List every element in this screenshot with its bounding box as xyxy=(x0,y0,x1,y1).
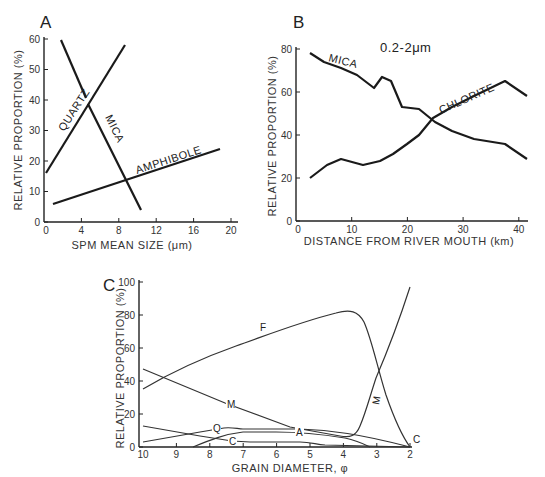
svg-text:8: 8 xyxy=(116,225,122,236)
panel-a-x-ticks: 0 4 8 12 16 20 xyxy=(43,218,237,236)
svg-text:50: 50 xyxy=(29,64,41,75)
svg-text:40: 40 xyxy=(281,130,293,141)
label-m2: M xyxy=(370,395,382,405)
figure: A 0 10 20 30 40 50 60 0 4 8 12 16 20 xyxy=(0,0,545,477)
panel-c: C 0 20 40 60 80 100 10 9 8 7 6 5 4 3 xyxy=(103,276,420,474)
panel-b: B 0.2-2μm 0 20 40 60 80 0 10 20 30 40 DI… xyxy=(266,13,528,247)
svg-text:20: 20 xyxy=(29,156,41,167)
panel-a-x-label: SPM MEAN SIZE (μm) xyxy=(71,239,192,251)
svg-text:60: 60 xyxy=(29,34,41,45)
label-m: M xyxy=(227,399,235,410)
svg-text:20: 20 xyxy=(402,224,414,235)
panel-a: A 0 10 20 30 40 50 60 0 4 8 12 16 20 xyxy=(12,13,238,251)
svg-text:8: 8 xyxy=(207,449,213,460)
svg-text:10: 10 xyxy=(29,186,41,197)
series-chlorite xyxy=(310,81,527,178)
svg-text:20: 20 xyxy=(225,225,237,236)
svg-text:80: 80 xyxy=(281,44,293,55)
svg-text:0: 0 xyxy=(295,224,301,235)
label-chlorite: CHLORITE xyxy=(437,81,496,116)
series-m xyxy=(143,287,410,437)
svg-text:6: 6 xyxy=(274,449,280,460)
label-c: C xyxy=(229,436,236,447)
svg-text:20: 20 xyxy=(281,173,293,184)
svg-text:12: 12 xyxy=(151,225,163,236)
svg-text:30: 30 xyxy=(29,125,41,136)
label-amphibole: AMPHIBOLE xyxy=(134,143,203,176)
panel-a-y-label: RELATIVE PROPORTION (%) xyxy=(12,50,24,211)
svg-text:7: 7 xyxy=(240,449,246,460)
svg-text:3: 3 xyxy=(374,449,380,460)
panel-c-x-label: GRAIN DIAMETER, φ xyxy=(232,462,348,474)
series-f xyxy=(143,311,410,447)
svg-text:0: 0 xyxy=(129,442,135,453)
svg-text:60: 60 xyxy=(281,87,293,98)
panel-b-x-label: DISTANCE FROM RIVER MOUTH (km) xyxy=(304,235,514,247)
panel-a-y-ticks: 0 10 20 30 40 50 60 xyxy=(29,34,48,228)
svg-text:100: 100 xyxy=(118,277,135,288)
panel-b-y-ticks: 0 20 40 60 80 xyxy=(281,44,300,227)
panel-b-subtitle: 0.2-2μm xyxy=(380,40,431,55)
label-f: F xyxy=(260,322,266,333)
panel-c-y-label: RELATIVE PROPORTION (%) xyxy=(114,288,126,449)
label-c2: C xyxy=(413,434,420,445)
svg-text:10: 10 xyxy=(346,224,358,235)
svg-text:16: 16 xyxy=(188,225,200,236)
svg-text:5: 5 xyxy=(307,449,313,460)
svg-text:30: 30 xyxy=(458,224,470,235)
svg-text:40: 40 xyxy=(29,95,41,106)
panel-a-letter: A xyxy=(40,13,52,32)
panel-b-y-label: RELATIVE PROPORTION (%) xyxy=(266,56,278,217)
svg-text:0: 0 xyxy=(34,217,40,228)
svg-text:4: 4 xyxy=(79,225,85,236)
svg-text:0: 0 xyxy=(43,225,49,236)
panel-b-letter: B xyxy=(293,13,304,32)
svg-text:9: 9 xyxy=(174,449,180,460)
svg-text:4: 4 xyxy=(341,449,347,460)
svg-text:40: 40 xyxy=(513,224,525,235)
label-mica-b: MICA xyxy=(328,51,360,70)
label-q: Q xyxy=(213,423,221,434)
svg-text:10: 10 xyxy=(137,449,149,460)
label-a: A xyxy=(296,427,303,438)
svg-text:0: 0 xyxy=(286,216,292,227)
panel-b-x-ticks: 0 10 20 30 40 xyxy=(295,217,525,235)
svg-text:2: 2 xyxy=(407,449,413,460)
series-mica-b xyxy=(310,53,527,159)
